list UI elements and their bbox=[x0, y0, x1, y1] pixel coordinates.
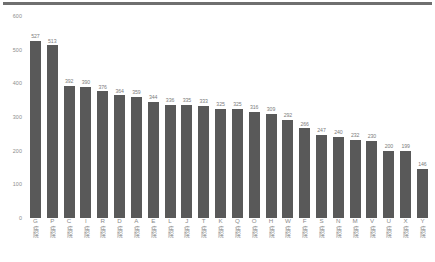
bar-rect[interactable] bbox=[249, 112, 260, 218]
bar-rect[interactable] bbox=[350, 140, 361, 218]
bar-rect[interactable] bbox=[165, 105, 176, 218]
bar-rect[interactable] bbox=[232, 109, 243, 218]
x-axis-label-letter: Y bbox=[420, 218, 424, 225]
bar-item[interactable]: 344 bbox=[146, 16, 161, 218]
x-axis-label: T病院 bbox=[196, 218, 211, 260]
bar-rect[interactable] bbox=[198, 106, 209, 218]
x-axis-label: X病院 bbox=[398, 218, 413, 260]
bar-item[interactable]: 200 bbox=[381, 16, 396, 218]
bar-value-label: 333 bbox=[200, 99, 208, 104]
bar-item[interactable]: 513 bbox=[45, 16, 60, 218]
x-axis-label: O病院 bbox=[247, 218, 262, 260]
x-axis-label: R病院 bbox=[95, 218, 110, 260]
y-axis-tick: 400 bbox=[13, 80, 22, 86]
x-axis-label-suffix: 病院 bbox=[285, 226, 291, 238]
x-axis-label-letter: Q bbox=[235, 218, 240, 225]
bar-item[interactable]: 325 bbox=[213, 16, 228, 218]
x-axis-label-letter: K bbox=[218, 218, 222, 225]
bar-item[interactable]: 309 bbox=[263, 16, 278, 218]
bar-value-label: 335 bbox=[183, 98, 191, 103]
x-axis-label-letter: P bbox=[50, 218, 54, 225]
x-axis-label: C病院 bbox=[62, 218, 77, 260]
bar-item[interactable]: 232 bbox=[348, 16, 363, 218]
bar-rect[interactable] bbox=[383, 151, 394, 218]
bar-value-label: 232 bbox=[351, 133, 359, 138]
x-axis-label-letter: R bbox=[100, 218, 104, 225]
bar-rect[interactable] bbox=[131, 97, 142, 218]
x-axis-label-letter: O bbox=[252, 218, 257, 225]
bar-item[interactable]: 392 bbox=[62, 16, 77, 218]
bar-rect[interactable] bbox=[47, 45, 58, 218]
x-axis-label-suffix: 病院 bbox=[133, 226, 139, 238]
bar-value-label: 513 bbox=[48, 39, 56, 44]
bar-rect[interactable] bbox=[282, 120, 293, 218]
x-axis-label-letter: T bbox=[202, 218, 206, 225]
x-axis-label: D病院 bbox=[112, 218, 127, 260]
x-axis-label: M病院 bbox=[348, 218, 363, 260]
x-axis-label-suffix: 病院 bbox=[167, 226, 173, 238]
y-axis-tick: 600 bbox=[13, 13, 22, 19]
bar-item[interactable]: 230 bbox=[364, 16, 379, 218]
bar-item[interactable]: 316 bbox=[247, 16, 262, 218]
bar-item[interactable]: 240 bbox=[331, 16, 346, 218]
bar-item[interactable]: 390 bbox=[78, 16, 93, 218]
x-axis-label: H病院 bbox=[263, 218, 278, 260]
bar-rect[interactable] bbox=[333, 137, 344, 218]
x-axis-label-letter: J bbox=[185, 218, 188, 225]
x-axis-label-letter: C bbox=[67, 218, 71, 225]
y-axis-tick: 0 bbox=[19, 215, 22, 221]
bar-item[interactable]: 199 bbox=[398, 16, 413, 218]
bar-item[interactable]: 336 bbox=[163, 16, 178, 218]
bar-rect[interactable] bbox=[316, 135, 327, 218]
bar-item[interactable]: 292 bbox=[280, 16, 295, 218]
x-axis-label-suffix: 病院 bbox=[66, 226, 72, 238]
bar-rect[interactable] bbox=[114, 95, 125, 218]
x-axis-label-letter: W bbox=[285, 218, 291, 225]
bar-rect[interactable] bbox=[97, 91, 108, 218]
bar-item[interactable]: 325 bbox=[230, 16, 245, 218]
y-axis-tick: 200 bbox=[13, 148, 22, 154]
bar-value-label: 200 bbox=[385, 144, 393, 149]
bar-rect[interactable] bbox=[80, 87, 91, 218]
bar-item[interactable]: 247 bbox=[314, 16, 329, 218]
x-axis-label-suffix: 病院 bbox=[234, 226, 240, 238]
x-axis-label-letter: V bbox=[370, 218, 374, 225]
x-axis-label: Q病院 bbox=[230, 218, 245, 260]
bar-item[interactable]: 266 bbox=[297, 16, 312, 218]
bar-rect[interactable] bbox=[366, 141, 377, 218]
bar-rect[interactable] bbox=[299, 128, 310, 218]
bar-item[interactable]: 359 bbox=[129, 16, 144, 218]
bar-item[interactable]: 364 bbox=[112, 16, 127, 218]
x-axis-label-suffix: 病院 bbox=[116, 226, 122, 238]
y-axis-tick: 300 bbox=[13, 114, 22, 120]
x-axis-label-suffix: 病院 bbox=[100, 226, 106, 238]
bar-item[interactable]: 527 bbox=[28, 16, 43, 218]
x-axis-label-suffix: 病院 bbox=[386, 226, 392, 238]
x-axis-label-letter: I bbox=[85, 218, 87, 225]
x-axis-label-letter: A bbox=[134, 218, 138, 225]
x-axis-label-suffix: 病院 bbox=[201, 226, 207, 238]
x-axis-label: Y病院 bbox=[415, 218, 430, 260]
bar-item[interactable]: 333 bbox=[196, 16, 211, 218]
plot-area: 5275133923903763643593443363353333253253… bbox=[27, 16, 431, 218]
bar-rect[interactable] bbox=[215, 109, 226, 218]
x-axis-label-letter: U bbox=[387, 218, 391, 225]
bar-rect[interactable] bbox=[181, 105, 192, 218]
x-axis-label: G病院 bbox=[28, 218, 43, 260]
x-axis-label-letter: H bbox=[269, 218, 273, 225]
bar-rect[interactable] bbox=[400, 151, 411, 218]
x-axis-label-suffix: 病院 bbox=[352, 226, 358, 238]
x-axis-label-suffix: 病院 bbox=[302, 226, 308, 238]
bar-rect[interactable] bbox=[417, 169, 428, 218]
bar-rect[interactable] bbox=[30, 41, 41, 218]
bar-item[interactable]: 376 bbox=[95, 16, 110, 218]
bar-rect[interactable] bbox=[64, 86, 75, 218]
bar-rect[interactable] bbox=[266, 114, 277, 218]
bar-value-label: 266 bbox=[300, 122, 308, 127]
bar-item[interactable]: 335 bbox=[179, 16, 194, 218]
bar-value-label: 344 bbox=[149, 95, 157, 100]
bar-value-label: 390 bbox=[82, 80, 90, 85]
bar-rect[interactable] bbox=[148, 102, 159, 218]
bar-item[interactable]: 146 bbox=[415, 16, 430, 218]
bar-value-label: 527 bbox=[31, 34, 39, 39]
